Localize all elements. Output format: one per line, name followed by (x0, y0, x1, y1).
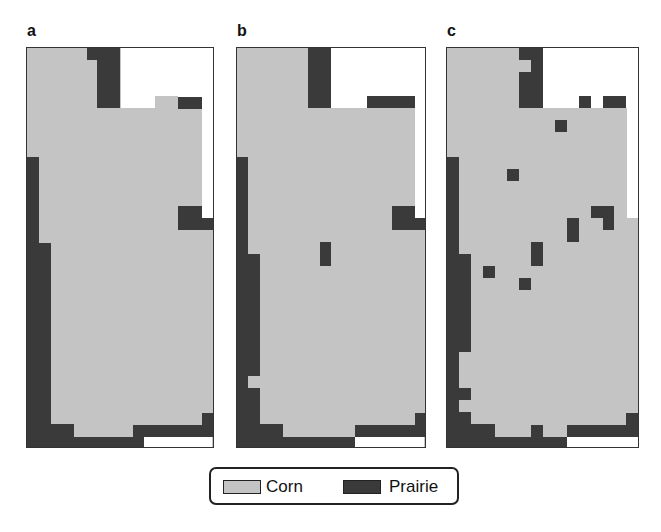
prairie-cell (27, 243, 51, 448)
legend-label-prairie: Prairie (389, 477, 438, 497)
outside-area (567, 437, 638, 447)
prairie-cell (133, 425, 213, 437)
prairie-cell (447, 424, 495, 437)
prairie-cell (531, 425, 543, 437)
prairie-cell (415, 413, 425, 425)
prairie-cell (483, 266, 495, 278)
prairie-cell (237, 388, 260, 424)
prairie-cell (603, 96, 626, 108)
prairie-cell (27, 437, 144, 448)
prairie-cell (202, 218, 213, 230)
prairie-cell (237, 437, 355, 448)
prairie-cell (415, 218, 425, 230)
prairie-cell (591, 206, 614, 218)
outside-area (415, 48, 425, 218)
prairie-cell (447, 437, 567, 448)
corn-cell (519, 60, 531, 72)
corn-swatch (223, 480, 261, 494)
prairie-cell (178, 206, 202, 230)
outside-area (144, 437, 212, 447)
outside-area (627, 48, 638, 218)
prairie-cell (603, 218, 614, 230)
prairie-cell (447, 388, 471, 400)
prairie-cell (555, 120, 567, 132)
outside-area (202, 48, 213, 218)
outside-area (355, 437, 424, 447)
legend: Corn Prairie (209, 467, 459, 505)
prairie-cell (355, 425, 425, 437)
prairie-cell (447, 352, 459, 388)
prairie-cell (27, 157, 39, 244)
prairie-cell (367, 96, 415, 108)
prairie-cell (178, 97, 202, 109)
prairie-cell (567, 218, 579, 242)
prairie-cell (237, 376, 248, 388)
prairie-cell (519, 278, 531, 290)
map-panel-b (236, 47, 426, 448)
prairie-cell (531, 242, 543, 266)
prairie-cell (308, 48, 331, 108)
prairie-cell (237, 424, 283, 437)
prairie-cell (579, 96, 591, 108)
prairie-cell (626, 413, 638, 437)
prairie-cell (507, 169, 519, 181)
prairie-cell (519, 48, 543, 108)
prairie-cell (447, 157, 459, 254)
prairie-cell (447, 254, 471, 352)
prairie-cell (237, 157, 248, 254)
panel-label-a: a (27, 23, 36, 39)
legend-label-corn: Corn (266, 477, 303, 497)
prairie-cell (447, 400, 459, 412)
panel-label-c: c (447, 23, 456, 39)
prairie-swatch (343, 480, 381, 494)
map-panel-a (26, 47, 214, 448)
prairie-cell (320, 242, 331, 266)
panel-label-b: b (237, 23, 247, 39)
prairie-cell (97, 48, 120, 108)
prairie-cell (237, 254, 260, 376)
prairie-cell (202, 413, 213, 425)
prairie-cell (392, 206, 415, 230)
corn-cell (155, 96, 178, 108)
map-panel-c (446, 47, 639, 448)
prairie-cell (447, 412, 471, 424)
prairie-cell (27, 424, 74, 437)
